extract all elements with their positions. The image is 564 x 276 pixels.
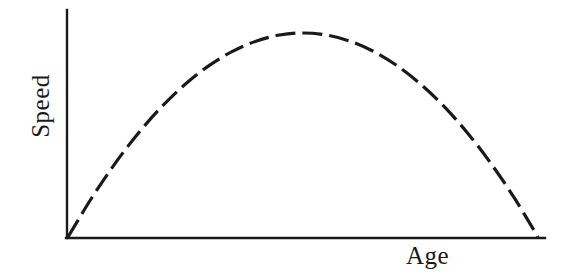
speed-vs-age-chart: Speed Age	[0, 0, 564, 276]
y-axis-label: Speed	[0, 66, 84, 146]
speed-curve	[68, 33, 538, 237]
chart-plot-area	[0, 0, 564, 276]
x-axis-label: Age	[406, 243, 449, 268]
